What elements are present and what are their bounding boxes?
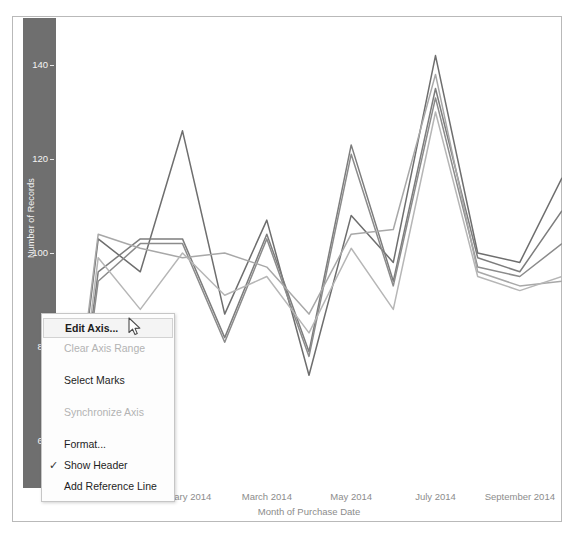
x-axis-tick-label: July 2014 (415, 491, 456, 502)
x-axis-tick-label: March 2014 (242, 491, 292, 502)
y-axis-tick-label: 100 (23, 248, 54, 258)
menu-item-label: Format... (64, 438, 106, 450)
menu-item-label: Edit Axis... (65, 322, 118, 334)
y-axis-tick-mark (50, 253, 54, 254)
y-axis-tick-mark (50, 65, 54, 66)
y-axis-title: Number of Records (26, 158, 36, 278)
checkmark-icon: ✓ (49, 455, 58, 476)
menu-item-label: Select Marks (64, 374, 125, 386)
y-axis-tick-text: 120 (32, 153, 48, 164)
y-axis-tick-text: 100 (32, 247, 48, 258)
menu-item-add-reference-line[interactable]: Add Reference Line (42, 476, 174, 497)
x-axis-title: Month of Purchase Date (56, 506, 562, 517)
y-axis-tick-label: 140 (23, 60, 54, 70)
menu-separator (48, 364, 168, 365)
menu-separator (48, 396, 168, 397)
x-axis-tick-label: May 2014 (330, 491, 372, 502)
menu-item-format[interactable]: Format... (42, 434, 174, 455)
menu-item-select-marks[interactable]: Select Marks (42, 370, 174, 391)
y-axis-tick-label: 120 (23, 154, 54, 164)
menu-separator (48, 428, 168, 429)
menu-item-synchronize-axis: Synchronize Axis (42, 402, 174, 423)
menu-item-label: Show Header (64, 459, 128, 471)
menu-item-label: Clear Axis Range (64, 342, 145, 354)
menu-item-label: Add Reference Line (64, 480, 157, 492)
x-axis-tick-label: September 2014 (485, 491, 555, 502)
menu-item-label: Synchronize Axis (64, 406, 144, 418)
menu-item-edit-axis[interactable]: Edit Axis... (43, 318, 173, 338)
y-axis-tick-text: 140 (32, 59, 48, 70)
menu-item-show-header[interactable]: ✓Show Header (42, 455, 174, 476)
axis-context-menu[interactable]: Edit Axis...Clear Axis RangeSelect Marks… (41, 313, 175, 502)
y-axis-tick-mark (50, 159, 54, 160)
menu-item-clear-axis-range: Clear Axis Range (42, 338, 174, 359)
